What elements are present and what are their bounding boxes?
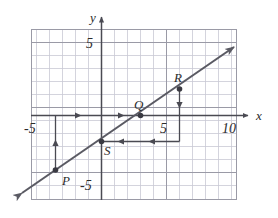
point-label-Q: Q — [134, 97, 144, 112]
point-label-P: P — [61, 173, 70, 188]
x-axis-label: x — [255, 108, 262, 123]
point-label-R: R — [173, 70, 182, 85]
point-Q — [138, 113, 144, 119]
point-R — [177, 86, 183, 92]
tick-label-five-y: 5 — [86, 36, 93, 51]
point-label-S: S — [104, 143, 111, 158]
figure-canvas: P Q R S x y -5 5 10 5 -5 — [0, 0, 278, 218]
tick-label-neg-five-x: -5 — [24, 121, 36, 136]
tick-label-ten-x: 10 — [222, 121, 236, 136]
tick-label-five-x: 5 — [160, 121, 167, 136]
tick-label-neg-five-y: -5 — [80, 178, 92, 193]
coordinate-plane-svg: P Q R S x y -5 5 10 5 -5 — [0, 0, 278, 218]
point-P — [53, 167, 59, 173]
y-axis-label: y — [88, 10, 96, 25]
